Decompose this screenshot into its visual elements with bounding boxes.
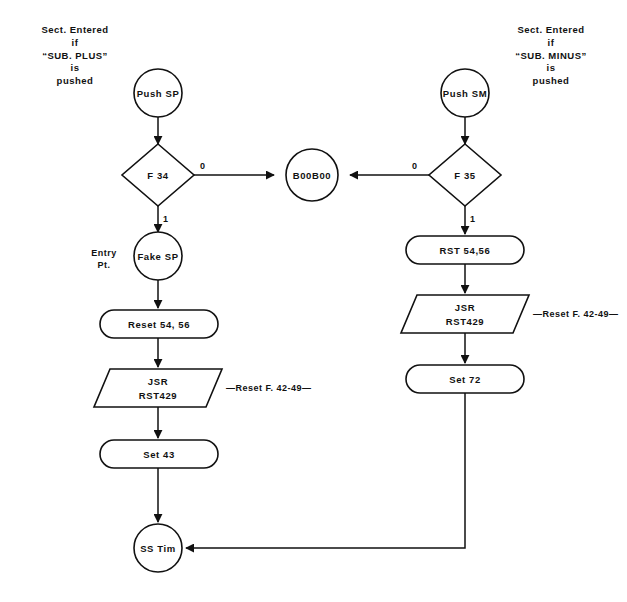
note-sub-plus-line4: is	[71, 62, 80, 73]
connector-set72-to-sstim	[186, 393, 465, 548]
edge-label-f35-zero: 0	[412, 161, 417, 171]
node-rst-54-56[interactable]: RST 54,56	[406, 236, 524, 264]
annotation-reset-flags-right: —Reset F. 42-49—	[533, 309, 619, 319]
note-sub-minus-line5: pushed	[533, 75, 570, 86]
node-b00b00-label: B00B00	[293, 170, 331, 181]
node-set-43-label: Set 43	[143, 449, 175, 460]
node-set-72-label: Set 72	[449, 374, 481, 385]
node-jsr-rst429-left-line1: JSR	[148, 376, 168, 387]
node-f35[interactable]: F 35	[429, 144, 501, 206]
node-push-sp[interactable]: Push SP	[134, 69, 182, 117]
node-fake-sp-label: Fake SP	[137, 251, 178, 262]
node-jsr-rst429-left[interactable]: JSR RST429	[94, 369, 222, 407]
node-push-sm-label: Push SM	[443, 88, 487, 99]
note-sub-minus-line3: “SUB. MINUS”	[515, 50, 586, 61]
node-f35-label: F 35	[454, 170, 476, 181]
node-push-sm[interactable]: Push SM	[441, 69, 489, 117]
node-jsr-rst429-right-line2: RST429	[446, 316, 484, 327]
note-sub-minus-line1: Sect. Entered	[517, 24, 584, 35]
node-reset-54-56-label: Reset 54, 56	[128, 319, 190, 330]
note-entry-point: Entry Pt.	[91, 248, 117, 270]
note-sub-plus-line1: Sect. Entered	[41, 24, 108, 35]
node-set-43[interactable]: Set 43	[100, 440, 218, 468]
note-sub-minus: Sect. Entered if “SUB. MINUS” is pushed	[515, 24, 586, 86]
node-b00b00[interactable]: B00B00	[286, 149, 338, 201]
note-entry-point-line2: Pt.	[97, 260, 110, 270]
note-sub-plus-line3: “SUB. PLUS”	[42, 50, 108, 61]
edge-label-f35-one: 1	[470, 214, 475, 224]
node-reset-54-56[interactable]: Reset 54, 56	[100, 310, 218, 338]
note-sub-minus-line4: is	[547, 62, 556, 73]
edge-label-f34-one: 1	[163, 214, 168, 224]
note-sub-plus-line2: if	[72, 37, 79, 48]
note-sub-plus-line5: pushed	[57, 75, 94, 86]
node-set-72[interactable]: Set 72	[406, 365, 524, 393]
note-sub-minus-line2: if	[548, 37, 555, 48]
node-rst-54-56-label: RST 54,56	[440, 245, 491, 256]
note-entry-point-line1: Entry	[91, 248, 117, 258]
node-jsr-rst429-left-line2: RST429	[139, 390, 177, 401]
annotation-reset-flags-left: —Reset F. 42-49—	[226, 383, 312, 393]
flowchart-canvas: Sect. Entered if “SUB. PLUS” is pushed S…	[0, 0, 627, 602]
node-ss-tim[interactable]: SS Tim	[134, 524, 182, 572]
node-jsr-rst429-right-line1: JSR	[455, 302, 475, 313]
node-jsr-rst429-right[interactable]: JSR RST429	[401, 295, 529, 333]
node-f34-label: F 34	[147, 170, 169, 181]
flowchart-page: Sect. Entered if “SUB. PLUS” is pushed S…	[0, 0, 627, 602]
node-fake-sp[interactable]: Fake SP	[134, 232, 182, 280]
node-ss-tim-label: SS Tim	[140, 543, 176, 554]
node-f34[interactable]: F 34	[122, 144, 194, 206]
edge-label-f34-zero: 0	[200, 161, 205, 171]
node-push-sp-label: Push SP	[137, 88, 180, 99]
note-sub-plus: Sect. Entered if “SUB. PLUS” is pushed	[41, 24, 108, 86]
